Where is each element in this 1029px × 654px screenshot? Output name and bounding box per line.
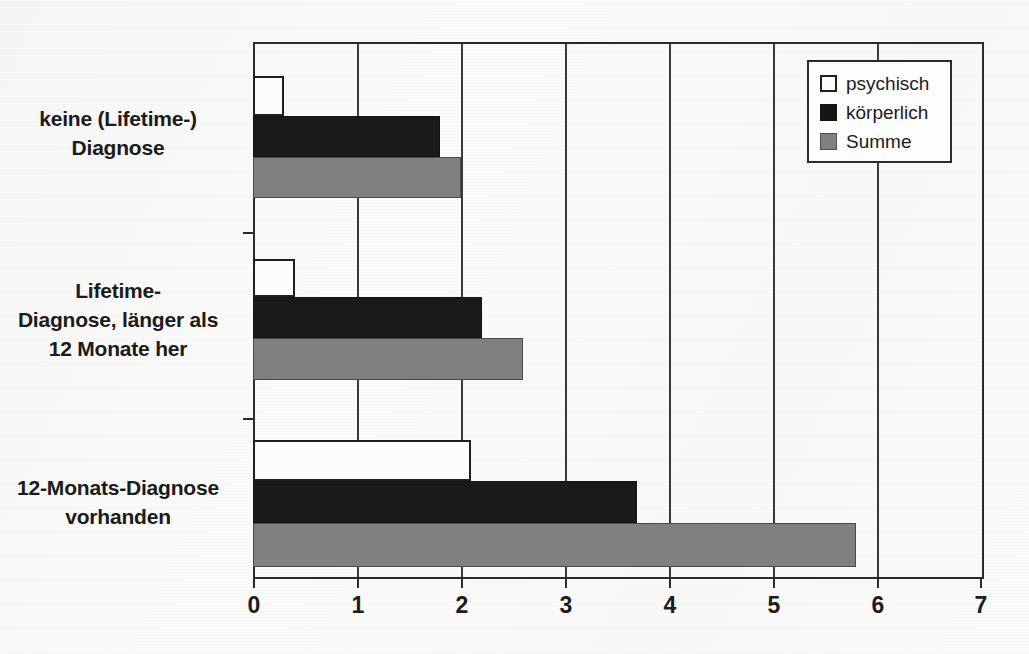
bar-12-monats-diagnose-summe: [253, 523, 856, 567]
bar-keine-lifetime-diagnose-koerperlich: [253, 116, 440, 157]
legend-label-koerperlich: körperlich: [846, 102, 928, 124]
x-tick-label-6: 6: [858, 592, 898, 619]
bar-12-monats-diagnose-psychisch: [253, 440, 471, 481]
bar-12-monats-diagnose-koerperlich: [253, 481, 637, 523]
legend-item-summe: Summe: [820, 127, 950, 156]
x-tick-1: [357, 577, 359, 588]
x-tick-7: [980, 577, 982, 588]
x-tick-4: [669, 577, 671, 588]
chart-figure: 0 1 2 3 4 5 6 7 keine (Lifetime-) Diagno…: [0, 0, 1029, 654]
gridline-5: [773, 44, 775, 579]
x-tick-3: [565, 577, 567, 588]
x-tick-5: [773, 577, 775, 588]
x-tick-label-5: 5: [754, 592, 794, 619]
x-tick-0: [253, 577, 255, 588]
x-axis-line: [253, 577, 982, 579]
gray-square-icon: [820, 133, 837, 150]
x-tick-6: [877, 577, 879, 588]
legend-label-summe: Summe: [846, 131, 911, 153]
bar-keine-lifetime-diagnose-summe: [253, 157, 461, 198]
y-category-label-line: Diagnose: [0, 133, 258, 162]
bar-lifetime-diagnose-laenger-summe: [253, 338, 523, 380]
chart-legend: psychisch körperlich Summe: [807, 60, 952, 163]
gridline-4: [669, 44, 671, 579]
y-category-label-line: Diagnose, länger als: [0, 305, 258, 334]
x-tick-label-4: 4: [650, 592, 690, 619]
y-category-label-line: vorhanden: [0, 502, 258, 531]
x-tick-label-1: 1: [338, 592, 378, 619]
y-category-label-line: keine (Lifetime-): [0, 104, 258, 133]
y-category-label-line: 12 Monate her: [0, 334, 258, 363]
y-category-tick-2: [243, 418, 255, 420]
black-square-icon: [820, 104, 837, 121]
y-category-tick-1: [243, 232, 255, 234]
y-category-label-lifetime-diagnose-laenger: Lifetime- Diagnose, länger als 12 Monate…: [0, 276, 258, 363]
x-tick-label-7: 7: [961, 592, 1001, 619]
x-tick-label-0: 0: [234, 592, 274, 619]
y-category-label-12-monats-diagnose: 12-Monats-Diagnose vorhanden: [0, 473, 258, 531]
bar-lifetime-diagnose-laenger-psychisch: [253, 259, 295, 297]
legend-item-koerperlich: körperlich: [820, 98, 950, 127]
x-tick-label-3: 3: [546, 592, 586, 619]
y-category-label-keine-lifetime-diagnose: keine (Lifetime-) Diagnose: [0, 104, 258, 162]
legend-item-psychisch: psychisch: [820, 69, 950, 98]
white-square-icon: [820, 75, 837, 92]
x-tick-label-2: 2: [442, 592, 482, 619]
legend-label-psychisch: psychisch: [846, 73, 929, 95]
y-category-label-line: 12-Monats-Diagnose: [0, 473, 258, 502]
bar-lifetime-diagnose-laenger-koerperlich: [253, 297, 482, 338]
x-tick-2: [461, 577, 463, 588]
y-category-label-line: Lifetime-: [0, 276, 258, 305]
